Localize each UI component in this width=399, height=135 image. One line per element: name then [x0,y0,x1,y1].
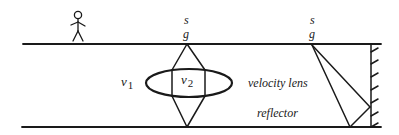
v2-label: v2 [181,72,193,89]
velocity-lens-label: velocity lens [248,76,308,90]
reflector-label: reflector [257,106,298,120]
receiver-label-center: g [183,27,189,41]
seismic-diagram: s g s g v1 v2 velocity lens reflector [0,0,399,135]
person-icon [71,11,85,41]
triangle-raypath [312,45,370,127]
receiver-label-right: g [309,27,315,41]
vertical-reflector-wall [371,44,378,127]
source-label-center: s [184,13,189,27]
source-label-right: s [310,13,315,27]
v1-label: v1 [121,74,133,91]
